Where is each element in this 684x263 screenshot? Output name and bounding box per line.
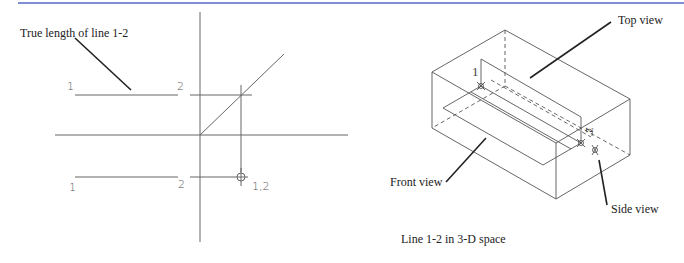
point-2-marker — [577, 139, 585, 147]
lower-point-1-label: 1 — [69, 181, 76, 194]
side-view-label: Side view — [611, 202, 659, 217]
true-length-annotation: True length of line 1-2 — [20, 26, 128, 41]
point-1-3d-label: 1 — [472, 64, 479, 80]
front-view-leader — [446, 138, 486, 182]
upper-point-1-label: 1 — [67, 80, 74, 93]
upper-point-2-label: 2 — [177, 80, 184, 93]
isometric-box — [432, 30, 630, 199]
point-2-3d-label: 2 — [584, 127, 596, 133]
top-view-label: Top view — [618, 13, 663, 28]
side-view-point-marker — [592, 145, 598, 155]
front-view-label: Front view — [390, 175, 442, 190]
true-length-leader — [75, 38, 131, 90]
lower-point-2-label: 2 — [178, 178, 185, 191]
point-1-marker — [477, 82, 485, 90]
orthographic-projection — [55, 12, 348, 242]
side-view-leader — [599, 160, 607, 205]
figure-caption: Line 1-2 in 3-D space — [401, 232, 506, 247]
point-view-label: 1,2 — [252, 180, 270, 193]
